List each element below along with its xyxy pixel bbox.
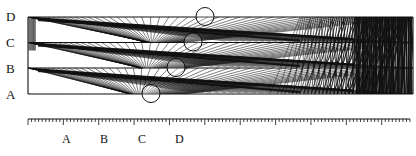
row-label-b: B xyxy=(6,61,15,76)
scale-ruler xyxy=(28,119,410,125)
fan-line-diagram: D C B A A B C D xyxy=(0,0,416,156)
focal-circle-c xyxy=(184,33,202,51)
focal-circle-a xyxy=(142,85,160,103)
focal-circle-b xyxy=(167,59,185,77)
diagram-panel xyxy=(28,17,416,124)
axis-label-b: B xyxy=(100,132,108,146)
axis-label-a: A xyxy=(62,132,71,146)
axis-label-d: D xyxy=(175,132,184,146)
axis-labels: A B C D xyxy=(62,132,184,146)
row-label-a: A xyxy=(6,87,16,102)
focal-circle-d xyxy=(196,8,214,26)
row-label-d: D xyxy=(6,9,15,24)
axis-label-c: C xyxy=(138,132,146,146)
row-label-c: C xyxy=(6,35,15,50)
row-labels: D C B A xyxy=(6,9,16,102)
